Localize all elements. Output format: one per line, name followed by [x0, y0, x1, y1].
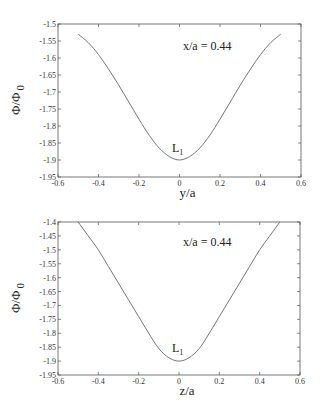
x-axis-label: z/a [179, 383, 194, 398]
y-tick-label: -1.6 [43, 54, 56, 63]
y-tick-label: -1.9 [43, 156, 56, 165]
y-tick-label: -1.55 [39, 260, 56, 269]
y-axis-label: Φ/Φ0 [8, 84, 26, 115]
y-axis-label: Φ/Φ0 [8, 282, 26, 313]
x-tick-label: 0.4 [256, 179, 266, 188]
y-tick-label: -1.5 [43, 246, 56, 255]
y-tick-label: -1.4 [43, 218, 56, 227]
x-tick-label: 0.2 [215, 179, 225, 188]
x-axis-label: y/a [180, 185, 196, 200]
y-tick-label: -1.65 [39, 71, 56, 80]
y-tick-label: -1.95 [39, 173, 56, 182]
y-tick-label: -1.8 [43, 329, 56, 338]
y-tick-label: -1.9 [43, 357, 56, 366]
y-tick-label: -1.85 [39, 343, 56, 352]
y-tick-label: -1.75 [39, 105, 56, 114]
y-tick-label: -1.5 [43, 20, 56, 29]
y-tick-label: -1.65 [39, 288, 56, 297]
y-tick-label: -1.6 [43, 274, 56, 283]
y-tick-label: -1.7 [43, 88, 56, 97]
x-tick-label: -0.4 [92, 179, 105, 188]
x-tick-label: 0.6 [296, 179, 306, 188]
x-tick-label: -0.2 [132, 377, 145, 386]
top-plot: -0.6-0.4-0.200.20.40.6-1.5-1.55-1.6-1.65… [8, 20, 306, 200]
y-tick-label: -1.55 [39, 37, 56, 46]
data-line [78, 34, 281, 160]
bottom-plot: -0.6-0.4-0.200.20.40.6-1.4-1.45-1.5-1.55… [8, 218, 305, 398]
x-tick-label: -0.2 [133, 179, 146, 188]
curve-label: L1 [172, 141, 183, 157]
y-tick-label: -1.85 [39, 139, 56, 148]
y-tick-label: -1.7 [43, 301, 56, 310]
x-tick-label: 0.4 [255, 377, 265, 386]
x-tick-label: 0.6 [295, 377, 305, 386]
curve-label: L1 [172, 341, 183, 357]
y-tick-label: -1.8 [43, 122, 56, 131]
y-tick-label: -1.95 [39, 371, 56, 380]
x-tick-label: 0.2 [214, 377, 224, 386]
annotation-x-ratio: x/a = 0.44 [183, 235, 231, 249]
y-tick-label: -1.75 [39, 315, 56, 324]
figure: -0.6-0.4-0.200.20.40.6-1.5-1.55-1.6-1.65… [0, 0, 325, 413]
annotation-x-ratio: x/a = 0.44 [183, 39, 231, 53]
x-tick-label: -0.4 [92, 377, 105, 386]
y-tick-label: -1.45 [39, 232, 56, 241]
